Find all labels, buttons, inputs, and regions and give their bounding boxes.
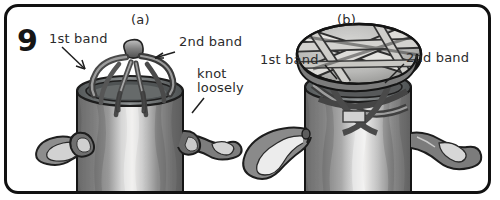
step-number: 9	[17, 23, 37, 58]
panel-b-second-band-label: 2nd band	[406, 51, 469, 65]
panel-b-right-loop	[411, 133, 481, 170]
figure-root: 9 (a) (b) 1st band 2nd band knot loosely…	[0, 0, 500, 200]
panel-b-left-loop	[243, 127, 311, 179]
panel-b-label: (b)	[337, 13, 356, 27]
panel-a-knot-loosely-label: knot loosely	[197, 67, 244, 94]
leader-a-knot	[192, 98, 204, 113]
figure-frame: 9 (a) (b) 1st band 2nd band knot loosely…	[4, 4, 491, 194]
panel-a-first-band-label: 1st band	[49, 32, 108, 46]
panel-a-second-band-label: 2nd band	[179, 35, 242, 49]
panel-a-right-loop	[178, 131, 242, 160]
leader-a-second-band	[155, 52, 175, 58]
panel-b-first-band-label: 1st band	[260, 53, 319, 67]
panel-a-label: (a)	[131, 13, 150, 27]
leader-a-first-band	[62, 47, 85, 69]
